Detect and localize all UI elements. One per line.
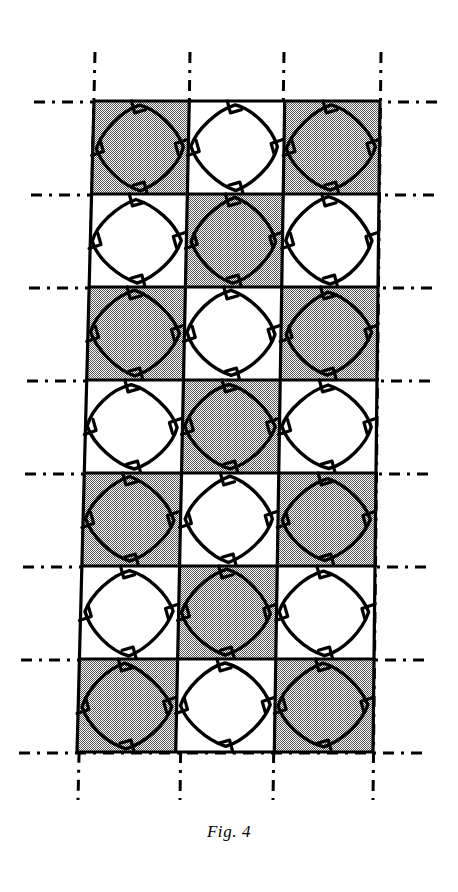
lattice-cell xyxy=(182,380,281,473)
lattice-cell xyxy=(84,380,183,473)
cell-fill-shaded xyxy=(277,473,376,566)
cell-fill-shaded xyxy=(82,473,182,566)
cell-fill-shaded xyxy=(283,101,380,194)
cell-fill-unshaded xyxy=(282,194,379,287)
lattice-cell xyxy=(187,101,284,194)
cell-fill-shaded xyxy=(77,659,178,752)
lattice-cell xyxy=(79,566,179,659)
lattice-cell xyxy=(280,287,378,380)
cell-fill-shaded xyxy=(92,101,190,194)
lattice-cell xyxy=(87,287,186,380)
figure-container: Fig. 4 xyxy=(0,0,458,892)
cell-fill-shaded xyxy=(280,287,378,380)
cell-fill-shaded xyxy=(274,659,374,752)
lattice-cell xyxy=(77,659,178,752)
cell-fill-unshaded xyxy=(279,380,377,473)
lattice-cell xyxy=(185,194,283,287)
figure-caption: Fig. 4 xyxy=(0,822,458,842)
lattice-cell xyxy=(178,566,278,659)
cell-fill-unshaded xyxy=(176,659,276,752)
cell-fill-unshaded xyxy=(89,194,187,287)
cell-fill-shaded xyxy=(185,194,283,287)
cell-fill-unshaded xyxy=(84,380,183,473)
lattice-cell xyxy=(282,194,379,287)
lattice-diagram xyxy=(0,0,458,892)
lattice-cell xyxy=(183,287,281,380)
cell-fill-shaded xyxy=(87,287,186,380)
cell-fill-unshaded xyxy=(79,566,179,659)
lattice-cell xyxy=(176,659,276,752)
cell-fill-unshaded xyxy=(180,473,279,566)
lattice-cell xyxy=(92,101,190,194)
lattice-cell xyxy=(82,473,182,566)
cell-fill-shaded xyxy=(182,380,281,473)
lattice-cell xyxy=(89,194,187,287)
cell-fill-unshaded xyxy=(183,287,281,380)
lattice-cell xyxy=(279,380,377,473)
lattice-cell xyxy=(283,101,380,194)
lattice-cell xyxy=(276,566,375,659)
cell-fill-shaded xyxy=(178,566,278,659)
lattice-cell xyxy=(274,659,374,752)
lattice-cell xyxy=(277,473,376,566)
lattice-cell xyxy=(180,473,279,566)
cell-fill-unshaded xyxy=(276,566,375,659)
cells-layer xyxy=(77,101,380,752)
cell-fill-unshaded xyxy=(187,101,284,194)
